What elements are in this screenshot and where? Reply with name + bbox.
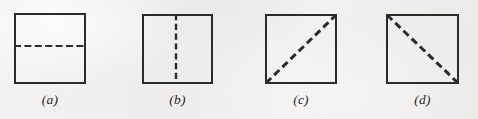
panel-label-a: (a) [14,92,86,108]
square-outline-a [14,13,86,84]
square-outline-b [142,14,213,84]
square-outline-d [386,14,459,84]
panel-label-b: (b) [142,92,213,108]
figure-container: (a) (b) (c) (d) [0,0,478,119]
panel-label-d: (d) [386,92,459,108]
square-outline-c [265,14,337,84]
panel-label-c: (c) [265,92,337,108]
